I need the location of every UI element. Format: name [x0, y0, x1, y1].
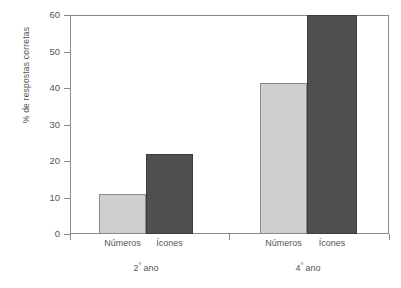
bar-4ano-numeros [260, 83, 307, 234]
y-axis-tick: 20 [0, 161, 70, 162]
y-axis-tick-label: 40 [49, 82, 60, 93]
group-label: 2º ano [133, 261, 158, 273]
bar-chart: % de respostas corretas 6050403020100 Nú… [0, 0, 401, 288]
y-axis-tick-label: 0 [55, 228, 60, 239]
bar-category-label: Ícones [156, 238, 183, 248]
x-axis-tick-right [389, 234, 390, 240]
x-axis-tick-middle [229, 234, 230, 240]
y-axis-tick-label: 30 [49, 119, 60, 130]
y-axis-tick-label: 60 [49, 9, 60, 20]
bars-layer [70, 15, 389, 234]
group-label: 4º ano [295, 261, 320, 273]
y-axis-tick-label: 20 [49, 155, 60, 166]
y-axis-tick-label: 10 [49, 192, 60, 203]
y-axis-tick: 10 [0, 198, 70, 199]
y-axis-tick: 60 [0, 15, 70, 16]
y-axis-tick: 40 [0, 88, 70, 89]
y-axis-tick: 0 [0, 234, 70, 235]
bar-4ano-icones [307, 15, 357, 234]
bar-category-label: Números [265, 238, 302, 248]
bar-2ano-numeros [99, 194, 146, 234]
y-axis-tick: 50 [0, 52, 70, 53]
bar-2ano-icones [146, 154, 193, 234]
y-axis-tick-label: 50 [49, 46, 60, 57]
bar-category-label: Ícones [319, 238, 346, 248]
x-axis-tick-left [70, 234, 71, 240]
y-axis-tick: 30 [0, 125, 70, 126]
bar-category-label: Números [104, 238, 141, 248]
